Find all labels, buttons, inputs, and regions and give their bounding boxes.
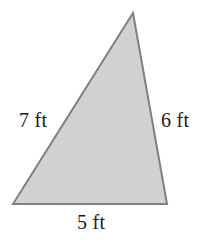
figure-canvas: 7 ft 6 ft 5 ft bbox=[0, 0, 206, 243]
side-label-left: 7 ft bbox=[19, 110, 47, 130]
side-label-right: 6 ft bbox=[161, 110, 189, 130]
side-label-base: 5 ft bbox=[77, 212, 105, 232]
